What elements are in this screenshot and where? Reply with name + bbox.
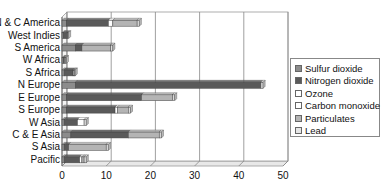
tick-label: 50 bbox=[277, 170, 288, 181]
tick-label: 0 bbox=[59, 170, 65, 181]
category-label: S America bbox=[14, 42, 60, 53]
legend-label: Carbon monoxide bbox=[305, 100, 380, 111]
tick-label: 20 bbox=[145, 170, 156, 181]
category-label: Pacific bbox=[31, 154, 60, 165]
swatch-icon bbox=[295, 115, 302, 122]
swatch-icon bbox=[295, 127, 302, 134]
category-label: S Europe bbox=[18, 104, 60, 115]
category-label: E Europe bbox=[18, 92, 60, 103]
legend-item-sulfur-dioxide: Sulfur dioxide bbox=[295, 62, 379, 75]
tick-label: 10 bbox=[101, 170, 112, 181]
category-label: W Asia bbox=[29, 117, 60, 128]
category-label: West Indies bbox=[8, 30, 60, 41]
category-label: S Asia bbox=[32, 141, 60, 152]
category-label: N Europe bbox=[18, 79, 60, 90]
legend-label: Lead bbox=[305, 125, 326, 136]
legend-item-ozone: Ozone bbox=[295, 87, 379, 100]
category-label: W Africa bbox=[23, 54, 60, 65]
tick-label: 40 bbox=[233, 170, 244, 181]
stacked-bar-chart: N & C AmericaWest IndiesS AmericaW Afric… bbox=[0, 0, 381, 193]
legend-label: Ozone bbox=[305, 88, 333, 99]
category-label: S Africa bbox=[26, 67, 60, 78]
legend-label: Particulates bbox=[305, 113, 355, 124]
legend-label: Sulfur dioxide bbox=[305, 63, 363, 74]
swatch-icon bbox=[295, 77, 302, 84]
legend-item-carbon-monoxide: Carbon monoxide bbox=[295, 100, 379, 113]
category-label: C & E Asia bbox=[12, 129, 60, 140]
legend-item-lead: Lead bbox=[295, 125, 379, 138]
tick-label: 30 bbox=[189, 170, 200, 181]
swatch-icon bbox=[295, 90, 302, 97]
category-label: N & C America bbox=[0, 17, 60, 28]
legend-item-particulates: Particulates bbox=[295, 112, 379, 125]
legend-item-nitrogen-dioxide: Nitrogen dioxide bbox=[295, 75, 379, 88]
swatch-icon bbox=[295, 102, 302, 109]
legend: Sulfur dioxide Nitrogen dioxide Ozone Ca… bbox=[290, 58, 380, 137]
legend-label: Nitrogen dioxide bbox=[305, 75, 374, 86]
swatch-icon bbox=[295, 65, 302, 72]
